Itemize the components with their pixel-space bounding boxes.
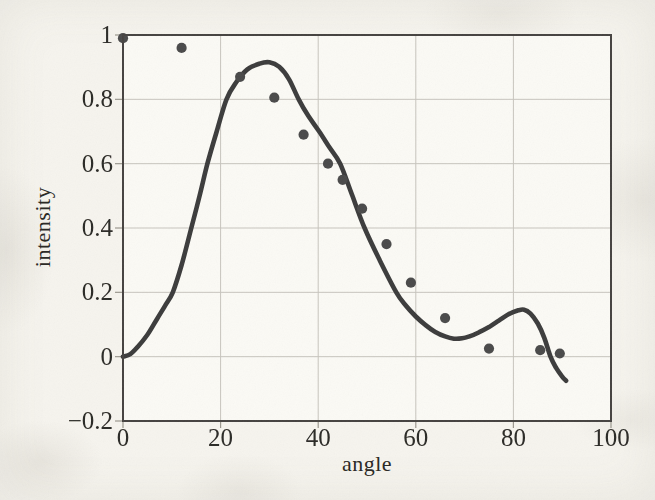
plot-canvas: 020406080100−0.200.20.40.60.81: [0, 0, 655, 500]
figure: 020406080100−0.200.20.40.60.81 angle int…: [0, 0, 655, 500]
x-axis-label: angle: [123, 451, 611, 477]
y-axis-label: intensity: [30, 187, 56, 267]
paper-grain-texture: [0, 0, 655, 500]
